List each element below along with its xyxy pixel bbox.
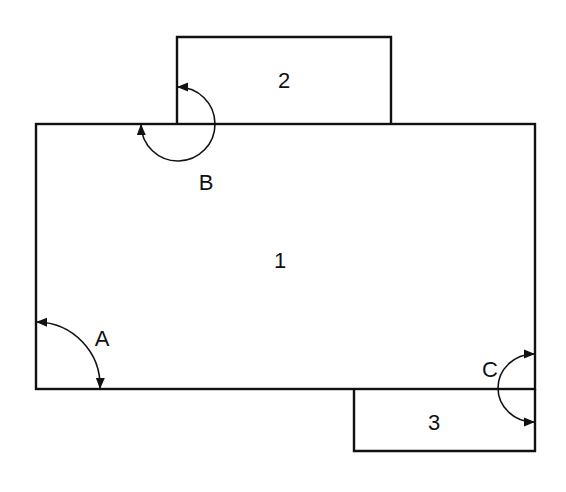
region-1-label: 1 (274, 248, 286, 273)
angle-c-label: C (482, 357, 498, 382)
region-2-label: 2 (278, 68, 290, 93)
angle-a-arc (37, 322, 100, 388)
angle-a-label: A (95, 326, 110, 351)
region-3-outline (354, 389, 535, 451)
angle-b-label: B (199, 170, 214, 195)
diagram-canvas: 1 2 3 A B C (0, 0, 566, 492)
region-3-label: 3 (428, 410, 440, 435)
